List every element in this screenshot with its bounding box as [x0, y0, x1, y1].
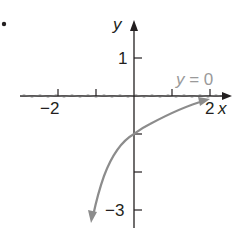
figure-marker-dot — [2, 22, 6, 26]
y-tick-label-neg3: −3 — [105, 201, 124, 220]
x-tick-label-2: 2 — [205, 99, 214, 118]
asymptote-label-eq: = 0 — [185, 70, 214, 89]
y-axis-arrow-icon — [130, 20, 138, 31]
asymptote-label: y = 0 — [175, 70, 213, 89]
graph: y 1 −3 −2 2 x y = 0 — [0, 0, 242, 228]
curve — [93, 101, 204, 216]
curve-arrow-left-icon — [88, 210, 97, 223]
x-tick-label-neg2: −2 — [40, 99, 59, 118]
y-axis-label: y — [112, 15, 123, 34]
x-axis-label: x — [217, 99, 227, 118]
y-tick-label-1: 1 — [118, 49, 127, 68]
